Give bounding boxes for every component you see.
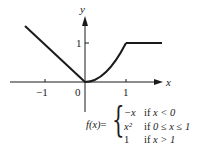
case-if: if bbox=[144, 134, 153, 145]
piecewise-formula: f(x)= { −xif x < 0 x²if 0 ≤ x ≤ 1 1if x … bbox=[86, 104, 197, 148]
formula-cases: −xif x < 0 x²if 0 ≤ x ≤ 1 1if x > 1 bbox=[124, 106, 190, 147]
case-expr: −x bbox=[124, 106, 144, 120]
case-expr: x² bbox=[124, 120, 144, 134]
x-axis-label: x bbox=[165, 76, 171, 88]
x-axis-arrow-icon bbox=[154, 79, 163, 85]
case-if: if bbox=[144, 121, 153, 132]
formula-case: 1if x > 1 bbox=[124, 133, 190, 147]
case-cond: x < 0 bbox=[153, 107, 175, 118]
x-tick-label-0: 0 bbox=[75, 86, 81, 98]
curve-segment-neg-x bbox=[25, 26, 85, 82]
x-tick-label-1: 1 bbox=[123, 86, 129, 98]
formula-case: −xif x < 0 bbox=[124, 106, 190, 120]
formula-lhs-text: f(x) bbox=[86, 119, 101, 130]
x-tick-label-minus-1: −1 bbox=[36, 86, 48, 98]
case-expr: 1 bbox=[124, 133, 144, 147]
formula-lhs: f(x)= bbox=[86, 119, 107, 130]
case-if: if bbox=[144, 107, 153, 118]
curve-segment-x-squared bbox=[85, 43, 126, 82]
brace-icon: { bbox=[112, 102, 125, 138]
formula-equals: = bbox=[101, 119, 107, 130]
case-cond: 0 ≤ x ≤ 1 bbox=[153, 121, 190, 132]
case-cond: x > 1 bbox=[153, 134, 175, 145]
y-tick-label-1: 1 bbox=[76, 37, 82, 49]
y-axis-arrow-icon bbox=[82, 16, 88, 26]
y-axis-label: y bbox=[79, 3, 85, 15]
formula-case: x²if 0 ≤ x ≤ 1 bbox=[124, 120, 190, 134]
